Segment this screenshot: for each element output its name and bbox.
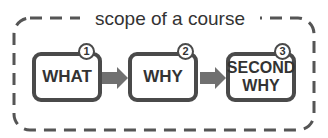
arrow-right-icon (102, 67, 128, 89)
step-label: WHAT (42, 68, 92, 86)
arrow-right-icon (200, 67, 226, 89)
scope-title: scope of a course (80, 6, 260, 32)
step-box-second-why: SECOND WHY (226, 52, 296, 102)
step-number-badge: 2 (177, 43, 194, 60)
step-label: WHY (143, 68, 183, 86)
step-label: SECOND WHY (227, 59, 295, 95)
step-number-badge: 3 (274, 43, 291, 60)
step-box-what: WHAT (32, 52, 102, 102)
step-number-badge: 1 (78, 43, 95, 60)
